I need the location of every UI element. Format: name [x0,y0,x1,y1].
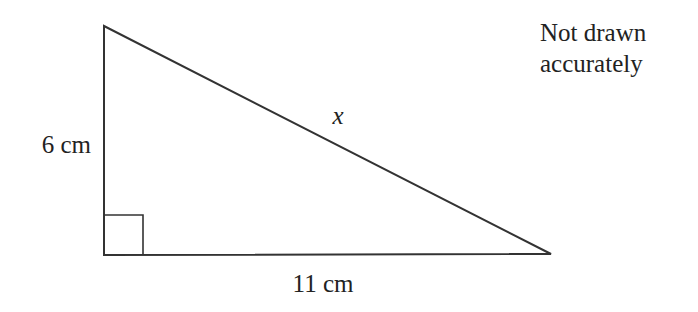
triangle [104,26,551,255]
right-angle-marker [104,215,143,255]
vertical-side-label: 6 cm [42,131,92,158]
horizontal-side-label: 11 cm [293,270,354,297]
hypotenuse-label: x [331,102,343,129]
note-line-1: Not drawn [540,19,647,46]
triangle-diagram: 6 cm 11 cm x Not drawn accurately [0,0,698,312]
note-line-2: accurately [540,50,643,77]
